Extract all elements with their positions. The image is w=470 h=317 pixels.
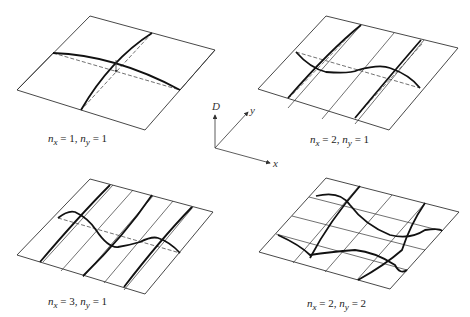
- membrane-outline: [17, 179, 213, 294]
- axis-label-d: D: [212, 100, 220, 112]
- axis-label-x: x: [273, 157, 278, 169]
- label-mode-1-1: nx = 1, ny = 1: [48, 132, 107, 147]
- panel-mode-2-1: [258, 16, 458, 130]
- axis-label-y: y: [250, 104, 255, 116]
- panel-mode-1-1: [17, 16, 215, 130]
- wave-curve-1: [316, 194, 442, 236]
- axes-indicator: [215, 112, 270, 163]
- membrane-outline: [17, 16, 215, 130]
- wave-curve-x: [58, 212, 180, 253]
- membrane-outline: [259, 178, 459, 289]
- label-mode-2-1: nx = 2, ny = 1: [310, 133, 369, 148]
- wave-curve-y1: [40, 185, 110, 262]
- y-axis: [215, 112, 248, 148]
- membrane-outline: [258, 16, 458, 130]
- label-mode-3-1: nx = 3, ny = 1: [48, 295, 107, 310]
- x-axis: [215, 148, 270, 163]
- panel-mode-3-1: [17, 179, 213, 294]
- label-mode-2-2: nx = 2, ny = 2: [307, 297, 366, 312]
- panel-mode-2-2: [259, 178, 459, 289]
- wave-curve-3: [310, 186, 360, 258]
- diagram-canvas: [0, 0, 470, 317]
